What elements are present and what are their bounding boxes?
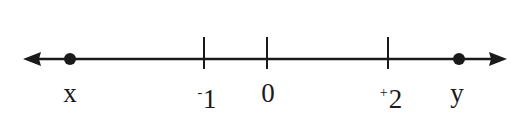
- point-y: [453, 53, 465, 65]
- tick-digit: 1: [203, 84, 217, 113]
- tick-label-0: 0: [261, 78, 275, 108]
- left-arrow-icon: [23, 52, 41, 66]
- point-x-text: x: [63, 78, 77, 108]
- plus-sign: +: [380, 85, 388, 100]
- tick-digit: 2: [389, 84, 403, 113]
- tick-label-pos-2: +2: [380, 78, 402, 113]
- minus-sign: -: [197, 85, 202, 100]
- point-y-text: y: [450, 78, 464, 108]
- right-arrow-icon: [489, 52, 507, 66]
- tick-label-neg-1: -1: [197, 78, 216, 113]
- point-x: [64, 53, 76, 65]
- point-label-x: x: [63, 78, 77, 108]
- tick-digit: 0: [261, 78, 275, 108]
- point-label-y: y: [450, 78, 464, 108]
